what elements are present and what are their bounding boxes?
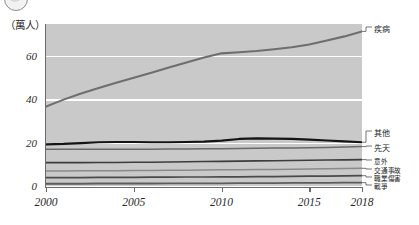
series-line-3 (46, 160, 362, 163)
legend-leader-line-5 (362, 176, 372, 177)
chart-root: （萬人） 0204060 20002005201020152018 疾病其他先天… (0, 0, 419, 225)
legend-label-6: 戰爭 (374, 181, 388, 191)
series-line-1 (46, 138, 362, 144)
series-line-4 (46, 168, 362, 171)
legend-leader-line-4 (362, 168, 372, 169)
series-line-0 (46, 31, 362, 106)
series-line-5 (46, 176, 362, 178)
series-lines-layer (0, 0, 419, 225)
legend-label-0: 疾病 (374, 23, 390, 34)
legend-label-1: 其他 (374, 127, 390, 138)
legend-leader-line-2 (362, 146, 372, 147)
legend-label-2: 先天 (374, 142, 390, 153)
legend-leader-line-0 (362, 27, 372, 31)
legend-leader-line-1 (362, 131, 372, 142)
series-line-2 (46, 147, 362, 150)
series-line-6 (46, 183, 362, 184)
legend-leader-line-6 (362, 183, 372, 185)
